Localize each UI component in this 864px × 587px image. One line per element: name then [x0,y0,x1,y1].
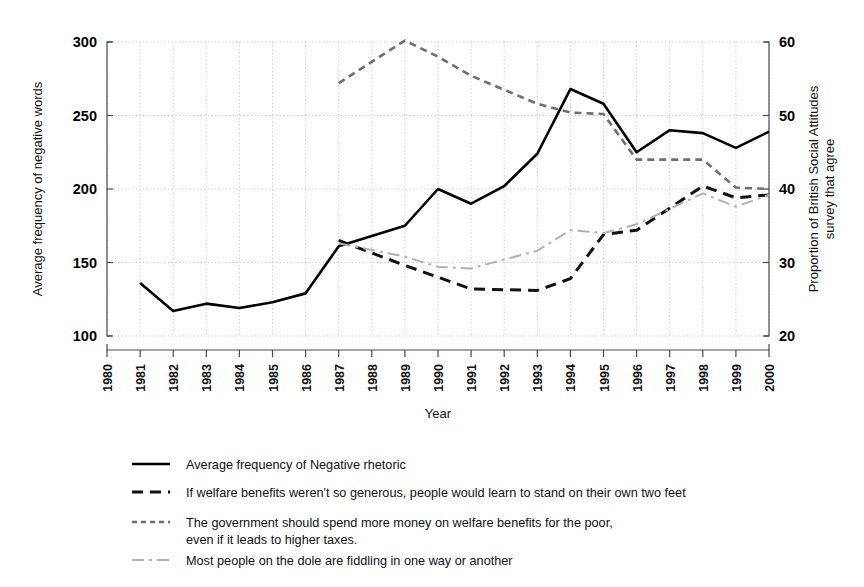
legend-label-2-line2: even if it leads to higher taxes. [186,533,357,547]
x-axis-tick-label: 1980 [101,364,115,392]
x-axis-tick-label: 1987 [333,364,347,392]
x-axis-tick-label: 1999 [730,364,744,392]
y-axis-title-left: Average frequency of negative words [30,81,45,296]
x-axis-tick-label: 1983 [200,364,214,392]
y-axis-tick-label-right: 60 [779,34,795,50]
x-axis-tick-label: 1997 [664,364,678,392]
chart-svg: 1001502002503002030405060198019811982198… [0,0,864,587]
x-axis-tick-label: 1998 [697,364,711,392]
series-line-2 [339,41,769,189]
y-axis-tick-label-right: 40 [779,181,795,197]
x-axis-tick-label: 1986 [300,364,314,392]
y-axis-tick-label-right: 20 [779,328,795,344]
y-axis-title-right-line2: survey that agree [822,139,837,239]
x-axis-tick-label: 1994 [564,364,578,392]
series-line-1 [339,186,769,290]
x-axis-tick-label: 1990 [432,364,446,392]
x-axis-tick-label: 1995 [598,364,612,392]
series-line-3 [339,193,769,268]
x-axis-tick-label: 1989 [399,364,413,392]
x-axis-tick-label: 1984 [233,364,247,392]
x-axis-tick-label: 1993 [531,364,545,392]
x-axis-tick-label: 1992 [498,364,512,392]
y-axis-tick-label-left: 250 [73,108,97,124]
y-axis-tick-label-left: 300 [73,34,97,50]
y-axis-tick-label-left: 200 [73,181,97,197]
x-axis-tick-label: 2000 [763,364,777,392]
x-axis-tick-label: 1996 [631,364,645,392]
y-axis-title-right: Proportion of British Social Attitudes [806,85,821,292]
y-axis-tick-label-right: 50 [779,108,795,124]
x-axis-tick-label: 1985 [267,364,281,392]
legend-group: Average frequency of Negative rhetoricIf… [132,458,686,568]
x-axis-spine [107,344,769,350]
legend-label-0: Average frequency of Negative rhetoric [186,458,406,472]
labels-group: 1001502002503002030405060198019811982198… [30,34,837,421]
x-axis-tick-label: 1981 [134,364,148,392]
x-axis-title: Year [425,406,452,421]
y-axis-tick-label-left: 100 [73,328,97,344]
x-axis-tick-label: 1991 [465,364,479,392]
series-group [140,41,769,311]
series-line-0 [140,89,769,311]
legend-label-1: If welfare benefits weren't so generous,… [186,486,686,500]
legend-label-3: Most people on the dole are fiddling in … [186,554,513,568]
chart-figure: 1001502002503002030405060198019811982198… [0,0,864,587]
x-axis-tick-label: 1988 [366,364,380,392]
y-axis-tick-label-right: 30 [779,255,795,271]
y-axis-tick-label-left: 150 [73,255,97,271]
legend-label-2: The government should spend more money o… [186,516,613,530]
x-axis-tick-label: 1982 [167,364,181,392]
